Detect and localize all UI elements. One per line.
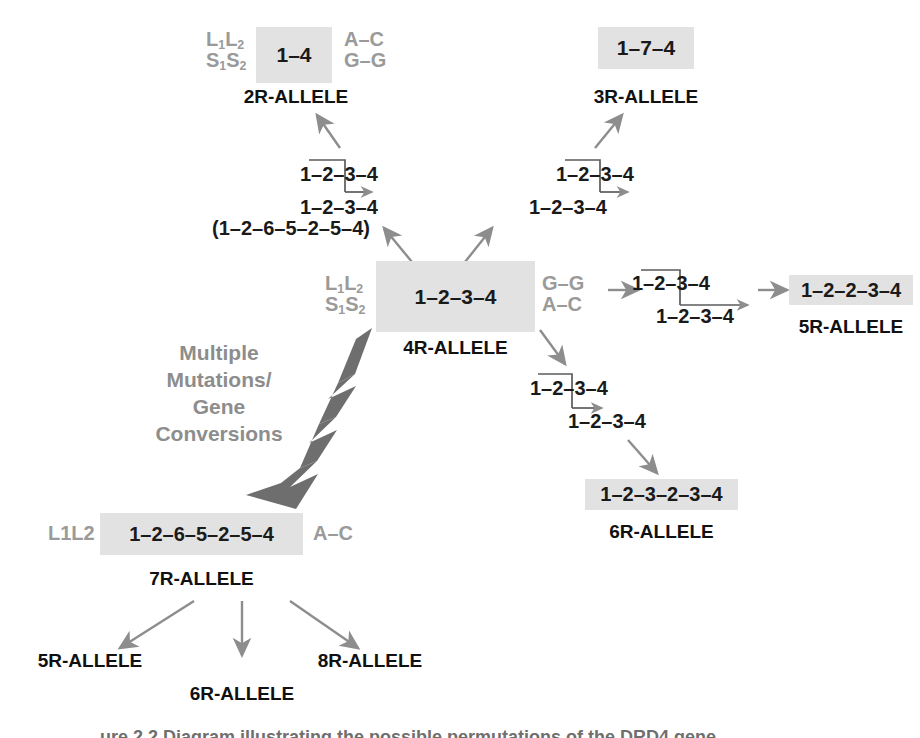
allele-2r-box-text: 1–4 <box>276 43 311 67</box>
allele-4r-left-flank-line1: L1L2 <box>325 272 363 294</box>
allele-3r-box: 1–7–4 <box>598 27 694 69</box>
allele-5r-label: 5R-ALLELE <box>789 316 913 338</box>
figure-caption: ure 2.2 Diagram illustrating the possibl… <box>100 727 800 738</box>
allele-4r-right-flank-line1: G–G <box>542 272 584 294</box>
allele-7r-box: 1–2–6–5–2–5–4 <box>100 513 303 555</box>
derived-allele-6r-label: 6R-ALLELE <box>172 683 312 705</box>
allele-3r-label: 3R-ALLELE <box>556 86 736 108</box>
recomb-right-top-strand: 1–2–3–4 <box>632 272 710 295</box>
allele-4r-box: 1–2–3–4 <box>376 261 535 332</box>
allele-5r-box-text: 1–2–2–3–4 <box>801 279 901 302</box>
arrow-7r-to-8r <box>290 601 358 648</box>
recomb-lower-right-bottom-strand: 1–2–3–4 <box>568 410 646 433</box>
arrow-recomb-to-2r <box>317 115 340 148</box>
allele-3r-box-text: 1–7–4 <box>617 36 675 60</box>
derived-allele-8r-label: 8R-ALLELE <box>300 650 440 672</box>
allele-6r-box: 1–2–3–2–3–4 <box>585 479 738 510</box>
arrow-4r-to-upper-right <box>465 228 492 262</box>
multiple-mutations-note: Multiple Mutations/ Gene Conversions <box>128 340 310 448</box>
allele-4r-left-flank: L1L2 S1S2 <box>325 273 366 315</box>
derived-allele-5r-label: 5R-ALLELE <box>20 650 160 672</box>
allele-5r-box: 1–2–2–3–4 <box>789 275 913 305</box>
recomb-upper-left-top-strand: 1–2–3–4 <box>300 163 378 186</box>
allele-2r-left-flank: L1L2 S1S2 <box>206 29 247 71</box>
allele-2r-right-flank-line1: A–C <box>344 28 384 50</box>
recomb-lower-right-top-strand: 1–2–3–4 <box>530 377 608 400</box>
recomb-upper-left-bottom-strand: 1–2–3–4 <box>300 196 378 219</box>
allele-7r-box-text: 1–2–6–5–2–5–4 <box>129 523 274 546</box>
allele-2r-left-flank-line1: L1L2 <box>206 28 244 50</box>
allele-4r-right-flank-line2: A–C <box>542 293 582 315</box>
recomb-upper-right-bottom-strand: 1–2–3–4 <box>529 196 607 219</box>
diagram-canvas: 1–4 L1L2 S1S2 A–C G–G 2R-ALLELE 1–7–4 3R… <box>0 0 920 738</box>
allele-2r-box: 1–4 <box>256 27 332 83</box>
allele-7r-label: 7R-ALLELE <box>100 568 303 590</box>
arrow-recomb-to-3r <box>595 115 622 148</box>
mutation-note-line3: Gene <box>193 395 246 418</box>
mutation-note-line4: Conversions <box>155 422 282 445</box>
allele-2r-right-flank-line2: G–G <box>344 49 386 71</box>
allele-4r-left-flank-line2: S1S2 <box>325 293 366 315</box>
allele-7r-left-flank: L1L2 <box>48 523 95 544</box>
allele-2r-label: 2R-ALLELE <box>206 86 386 108</box>
arrow-7r-to-5r <box>120 601 194 648</box>
arrow-recomb-to-6r <box>628 440 657 473</box>
mutation-note-line2: Mutations/ <box>167 368 272 391</box>
recomb-upper-right-top-strand: 1–2–3–4 <box>556 163 634 186</box>
arrow-4r-to-upper-left <box>384 228 412 262</box>
allele-2r-left-flank-line2: S1S2 <box>206 49 247 71</box>
allele-4r-label: 4R-ALLELE <box>376 337 535 359</box>
mutation-note-line1: Multiple <box>179 341 258 364</box>
allele-2r-right-flank: A–C G–G <box>344 29 386 71</box>
allele-7r-right-flank: A–C <box>313 523 353 544</box>
allele-6r-label: 6R-ALLELE <box>585 521 738 543</box>
allele-4r-box-text: 1–2–3–4 <box>415 285 497 309</box>
recomb-right-bottom-strand: 1–2–3–4 <box>656 305 734 328</box>
recomb-upper-left-alt-strand: (1–2–6–5–2–5–4) <box>212 217 370 240</box>
arrow-4r-to-lower-right-recomb <box>540 330 565 364</box>
allele-6r-box-text: 1–2–3–2–3–4 <box>600 483 722 506</box>
allele-4r-right-flank: G–G A–C <box>542 273 584 315</box>
